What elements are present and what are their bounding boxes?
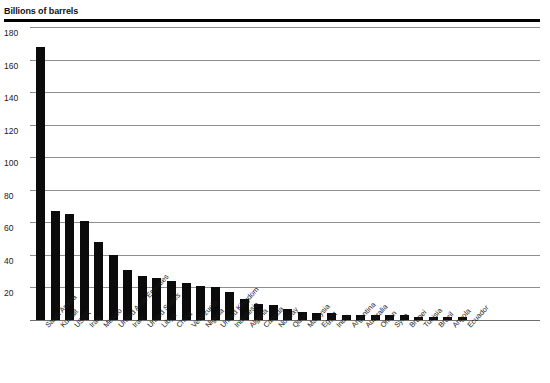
bar	[80, 221, 89, 320]
bar	[94, 242, 103, 320]
bar	[36, 47, 45, 320]
bar-chart: Billions of barrels 18016014012010080604…	[0, 0, 550, 383]
bar	[51, 211, 60, 320]
